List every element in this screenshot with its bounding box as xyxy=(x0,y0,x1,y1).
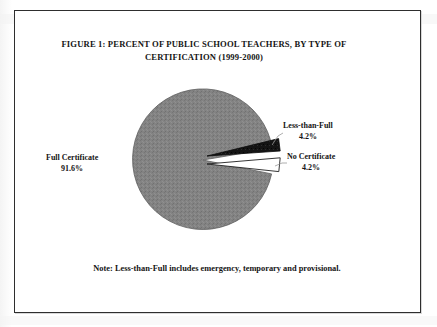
figure-title-line-1: FIGURE 1: PERCENT OF PUBLIC SCHOOL TEACH… xyxy=(24,38,384,51)
scan-artifact-bottom xyxy=(0,316,437,325)
figure-note: Note: Less-than-Full includes emergency,… xyxy=(24,264,410,273)
label-no-certificate-name: No Certificate xyxy=(287,151,335,162)
label-less-than-full-name: Less-than-Full xyxy=(283,120,333,131)
label-full-certificate-value: 91.6% xyxy=(46,163,98,174)
label-full-certificate: Full Certificate 91.6% xyxy=(46,152,98,174)
figure-title: FIGURE 1: PERCENT OF PUBLIC SCHOOL TEACH… xyxy=(24,38,384,64)
label-full-certificate-name: Full Certificate xyxy=(46,152,98,163)
label-less-than-full-value: 4.2% xyxy=(283,131,333,142)
label-no-certificate-value: 4.2% xyxy=(287,162,335,173)
figure-title-line-2: CERTIFICATION (1999-2000) xyxy=(24,51,384,64)
label-less-than-full: Less-than-Full 4.2% xyxy=(283,120,333,142)
label-no-certificate: No Certificate 4.2% xyxy=(287,151,335,173)
